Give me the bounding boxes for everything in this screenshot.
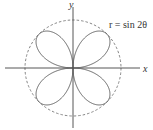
y-axis-label: y	[68, 0, 74, 10]
equation-label: r = sin 2θ	[109, 19, 147, 30]
rose-curve-diagram: x y r = sin 2θ	[0, 0, 153, 130]
x-axis-label: x	[142, 63, 148, 74]
